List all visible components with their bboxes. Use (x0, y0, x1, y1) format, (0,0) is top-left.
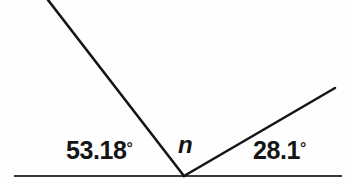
left-angle-value: 53.18 (66, 136, 127, 164)
angle-diagram-figure: 53.18° n 28.1° (0, 0, 350, 183)
degree-icon: ° (127, 139, 133, 156)
unknown-angle-label: n (178, 133, 193, 157)
right-angle-label: 28.1° (253, 138, 306, 163)
left-angle-label: 53.18° (66, 138, 132, 163)
right-angle-value: 28.1 (253, 136, 300, 164)
degree-icon: ° (300, 139, 306, 156)
